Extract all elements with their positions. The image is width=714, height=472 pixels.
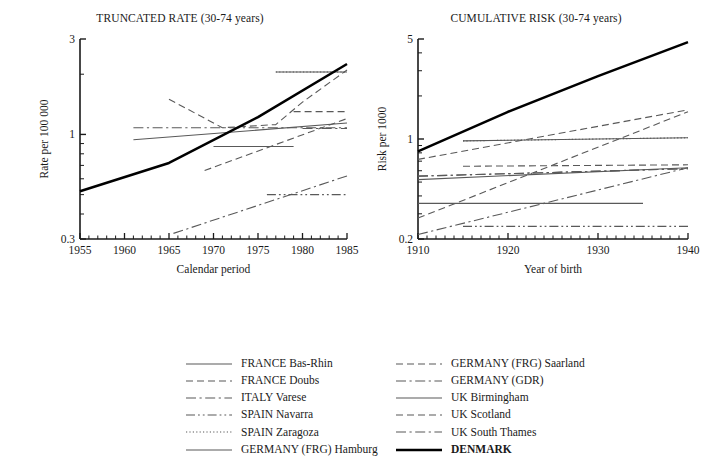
legend-line-swatch [396, 392, 442, 404]
y-tick-label: 5 [407, 33, 413, 45]
y-tick-label: 0.3 [61, 233, 76, 245]
y-tick-label: 3 [69, 33, 75, 45]
series-group [418, 42, 688, 234]
legend-item: UK Scotland [396, 407, 585, 424]
chart-panel-truncated-rate: TRUNCATED RATE (30-74 years) 19551960196… [0, 0, 360, 300]
legend-item: ITALY Varese [186, 389, 378, 406]
x-tick-label: 1980 [291, 244, 314, 256]
x-tick-label: 1910 [407, 244, 430, 256]
legend-line-swatch [396, 409, 442, 421]
legend-item: GERMANY (FRG) Saarland [396, 355, 585, 372]
y-axis-label: Risk per 1000 [376, 106, 389, 171]
legend-item-label: GERMANY (GDR) [451, 375, 544, 387]
series-line [418, 112, 688, 218]
figure-root: TRUNCATED RATE (30-74 years) 19551960196… [0, 0, 714, 472]
legend-column-left: FRANCE Bas-Rhin FRANCE Doubs ITALY Vares… [186, 355, 378, 458]
legend-item-label: FRANCE Doubs [241, 375, 319, 387]
chart-title-left: TRUNCATED RATE (30-74 years) [0, 12, 360, 24]
legend-item: FRANCE Bas-Rhin [186, 355, 378, 372]
legend-item: SPAIN Navarra [186, 407, 378, 424]
chart-legend: FRANCE Bas-Rhin FRANCE Doubs ITALY Vares… [0, 355, 714, 470]
series-line [463, 138, 688, 141]
legend-item-label: GERMANY (FRG) Saarland [451, 358, 585, 370]
x-axis-label: Calendar period [177, 263, 251, 276]
legend-line-swatch [186, 444, 232, 456]
legend-line-swatch [396, 375, 442, 387]
legend-item: GERMANY (FRG) Hamburg [186, 441, 378, 458]
y-tick-label: 1 [69, 128, 75, 140]
x-tick-label: 1970 [202, 244, 225, 256]
legend-line-swatch [396, 358, 442, 370]
legend-item: GERMANY (GDR) [396, 372, 585, 389]
chart-svg-right: 19101920193019400.215Year of birthRisk p… [358, 0, 714, 300]
legend-line-swatch [186, 426, 232, 438]
legend-item-label: FRANCE Bas-Rhin [241, 358, 333, 370]
x-tick-label: 1975 [247, 244, 270, 256]
legend-line-swatch [186, 358, 232, 370]
x-tick-label: 1955 [69, 244, 92, 256]
legend-item-label: UK Birmingham [451, 392, 529, 404]
y-tick-label: 1 [407, 133, 413, 145]
x-tick-label: 1940 [677, 244, 700, 256]
legend-item-label: GERMANY (FRG) Hamburg [241, 444, 378, 456]
x-tick-label: 1965 [158, 244, 181, 256]
legend-item-label: DENMARK [451, 444, 512, 456]
legend-line-swatch [186, 392, 232, 404]
legend-item: DENMARK [396, 441, 585, 458]
legend-line-swatch [186, 375, 232, 387]
y-tick-label: 0.2 [399, 233, 414, 245]
legend-item-label: UK Scotland [451, 409, 511, 421]
legend-item-label: SPAIN Navarra [241, 409, 313, 421]
legend-item: UK South Thames [396, 424, 585, 441]
x-tick-label: 1960 [113, 244, 136, 256]
legend-item: FRANCE Doubs [186, 372, 378, 389]
legend-item: UK Birmingham [396, 389, 585, 406]
series-line [463, 165, 688, 166]
legend-column-right: GERMANY (FRG) Saarland GERMANY (GDR) UK … [396, 355, 585, 458]
legend-item-label: ITALY Varese [241, 392, 306, 404]
series-line [173, 176, 347, 233]
y-axis-label: Rate per 100 000 [38, 99, 51, 178]
legend-line-swatch [396, 426, 442, 438]
legend-line-swatch [396, 444, 442, 456]
series-line [205, 119, 347, 171]
x-axis-label: Year of birth [524, 263, 582, 275]
x-tick-label: 1985 [336, 244, 359, 256]
x-tick-label: 1930 [587, 244, 610, 256]
chart-title-right: CUMULATIVE RISK (30-74 years) [358, 12, 714, 24]
legend-item-label: UK South Thames [451, 427, 536, 439]
legend-item-label: SPAIN Zaragoza [241, 427, 319, 439]
x-tick-label: 1920 [497, 244, 520, 256]
chart-panel-cumulative-risk: CUMULATIVE RISK (30-74 years) 1910192019… [358, 0, 714, 300]
legend-line-swatch [186, 409, 232, 421]
legend-item: SPAIN Zaragoza [186, 424, 378, 441]
chart-svg-left: 19551960196519701975198019850.313Calenda… [0, 0, 360, 300]
series-group [80, 64, 347, 233]
